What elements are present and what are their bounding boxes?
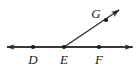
- point-label-e: E: [59, 52, 68, 67]
- diagram-canvas: D E F G: [0, 0, 139, 68]
- point-label-g: G: [91, 6, 101, 21]
- point-dot-e: [62, 45, 66, 49]
- point-dot-g: [104, 18, 108, 22]
- geometry-diagram: D E F G: [0, 0, 139, 68]
- point-label-f: F: [94, 52, 104, 67]
- point-label-d: D: [27, 52, 38, 67]
- point-dot-f: [97, 45, 101, 49]
- point-dot-d: [31, 45, 35, 49]
